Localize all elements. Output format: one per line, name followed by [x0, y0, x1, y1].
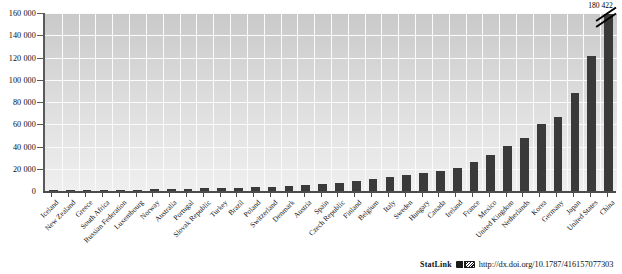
- x-axis-tick-mark: [556, 193, 557, 197]
- statlink-glyph-icon: [456, 261, 475, 268]
- x-axis-tick-mark: [321, 193, 322, 197]
- bar: [453, 168, 462, 191]
- bar: [436, 171, 445, 191]
- statlink-label: StatLink: [420, 260, 452, 269]
- x-axis-tick-mark: [573, 193, 574, 197]
- axis-break-marker: [596, 17, 618, 33]
- x-axis-tick-mark: [270, 193, 271, 197]
- x-axis-tick-mark: [388, 193, 389, 197]
- x-axis-tick-mark: [455, 193, 456, 197]
- y-axis-tick-label: 140 000: [9, 31, 36, 40]
- x-axis-category-labels: IcelandNew ZealandGreeceSouth AfricaRuss…: [43, 198, 615, 254]
- bar: [352, 181, 361, 191]
- x-axis-tick-label: China: [597, 198, 616, 217]
- bar-series: [45, 13, 617, 191]
- x-axis-tick-mark: [220, 193, 221, 197]
- y-axis-tick-label: 100 000: [9, 75, 36, 84]
- plot-area: [43, 13, 617, 191]
- bar: [503, 146, 512, 191]
- x-axis-tick-mark: [506, 193, 507, 197]
- x-axis-tick-mark: [590, 193, 591, 197]
- x-axis-tick-mark: [522, 193, 523, 197]
- x-axis-tick-mark: [438, 193, 439, 197]
- bar-chart-figure: 020 00040 00060 00080 000100 000120 0001…: [0, 0, 622, 274]
- x-axis-tick-mark: [253, 193, 254, 197]
- x-axis-tick-label: Ireland: [443, 198, 464, 219]
- y-axis-tick-label: 20 000: [13, 164, 36, 173]
- y-axis-tick-label: 60 000: [13, 120, 36, 129]
- y-axis-tick-label: 120 000: [9, 53, 36, 62]
- x-axis-tick-mark: [539, 193, 540, 197]
- y-axis-tick-label: 40 000: [13, 142, 36, 151]
- x-axis-tick-mark: [405, 193, 406, 197]
- x-axis-tick-mark: [169, 193, 170, 197]
- x-axis-tick-mark: [422, 193, 423, 197]
- y-axis-tick-label: 0: [32, 187, 36, 196]
- bar: [520, 138, 529, 191]
- bar: [335, 183, 344, 191]
- x-axis-tick-mark: [203, 193, 204, 197]
- x-axis-tick-mark: [337, 193, 338, 197]
- statlink-footer: StatLink http://dx.doi.org/10.1787/41615…: [420, 257, 613, 271]
- x-axis-tick-mark: [186, 193, 187, 197]
- x-axis-tick-mark: [489, 193, 490, 197]
- bar: [318, 184, 327, 191]
- x-axis-tick-mark: [85, 193, 86, 197]
- bar: [571, 93, 580, 191]
- x-axis-tick-mark: [119, 193, 120, 197]
- x-axis-tick-mark: [287, 193, 288, 197]
- x-axis-tick-mark: [472, 193, 473, 197]
- bar: [486, 155, 495, 191]
- x-axis-tick-mark: [68, 193, 69, 197]
- truncated-bar-value-label: 180 422: [588, 1, 613, 10]
- bar: [369, 179, 378, 191]
- x-axis-tick-mark: [236, 193, 237, 197]
- bar: [554, 117, 563, 191]
- y-axis-tick-label: 80 000: [13, 98, 36, 107]
- x-axis-tick-mark: [136, 193, 137, 197]
- bar: [419, 173, 428, 191]
- y-axis-tick-labels: 020 00040 00060 00080 000100 000120 0001…: [0, 0, 36, 200]
- bar: [470, 162, 479, 191]
- bar: [604, 14, 613, 191]
- bar: [587, 56, 596, 191]
- x-axis-tick-label: Turkey: [208, 198, 229, 219]
- statlink-url[interactable]: http://dx.doi.org/10.1787/416157077303: [479, 260, 614, 269]
- bar: [537, 124, 546, 191]
- x-axis-tick-mark: [152, 193, 153, 197]
- bar: [386, 177, 395, 191]
- y-axis-tick-label: 160 000: [9, 9, 36, 18]
- x-axis-tick-mark: [51, 193, 52, 197]
- x-axis-tick-mark: [371, 193, 372, 197]
- x-axis-tick-mark: [304, 193, 305, 197]
- x-axis-tick-mark: [607, 193, 608, 197]
- x-axis-tick-mark: [102, 193, 103, 197]
- bar: [402, 175, 411, 191]
- x-axis-tick-mark: [354, 193, 355, 197]
